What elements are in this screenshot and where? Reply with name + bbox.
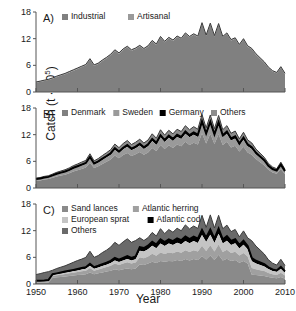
panel-tag: A) [43, 12, 54, 24]
panel-c: 0612181950196019701980199020002010C)Sand… [0, 196, 296, 292]
y-tick-label: 6 [26, 156, 31, 166]
panel-b: 061218B)DenmarkSwedenGermanyOthers [0, 100, 296, 196]
area-series [36, 24, 285, 92]
legend-label: Atlantic herring [142, 203, 199, 213]
legend-label: Sand lances [71, 203, 118, 213]
panel-c-plot: 0612181950196019701980199020002010C)Sand… [0, 196, 296, 306]
y-tick-label: 18 [21, 103, 31, 113]
legend-swatch [62, 206, 68, 212]
y-tick-label: 18 [21, 199, 31, 209]
legend-label: Sweden [122, 107, 153, 117]
legend-swatch [128, 14, 134, 20]
legend-label: Atlantic cod [157, 214, 201, 224]
y-tick-label: 6 [26, 252, 31, 262]
y-tick-label: 18 [21, 7, 31, 17]
legend-swatch [62, 110, 68, 116]
legend-label: Denmark [71, 107, 106, 117]
x-axis-label: Year [0, 292, 296, 306]
legend-label: Industrial [71, 11, 106, 21]
legend-swatch [211, 110, 217, 116]
legend-label: Others [220, 107, 246, 117]
y-tick-label: 6 [26, 60, 31, 70]
panel-tag: B) [43, 108, 54, 120]
panel-tag: C) [43, 204, 55, 216]
legend-swatch [62, 14, 68, 20]
legend-swatch [133, 206, 139, 212]
y-tick-label: 12 [21, 226, 31, 236]
legend-swatch [113, 110, 119, 116]
figure-container: Catch (t · 105) 061218A)IndustrialArtisa… [0, 0, 296, 311]
legend-label: European sprat [71, 214, 130, 224]
legend-swatch [62, 228, 68, 234]
legend-label: Others [71, 225, 97, 235]
y-tick-label: 12 [21, 34, 31, 44]
y-tick-label: 0 [26, 87, 31, 97]
legend-swatch [62, 217, 68, 223]
panel-b-plot: 061218B)DenmarkSwedenGermanyOthers [0, 100, 296, 196]
legend-label: Artisanal [137, 11, 170, 21]
panel-a-plot: 061218A)IndustrialArtisanal [0, 4, 296, 100]
legend-label: Germany [169, 107, 205, 117]
y-tick-label: 12 [21, 130, 31, 140]
panel-a: 061218A)IndustrialArtisanal [0, 4, 296, 100]
y-tick-label: 0 [26, 183, 31, 193]
legend-swatch [148, 217, 154, 223]
legend-swatch [160, 110, 166, 116]
